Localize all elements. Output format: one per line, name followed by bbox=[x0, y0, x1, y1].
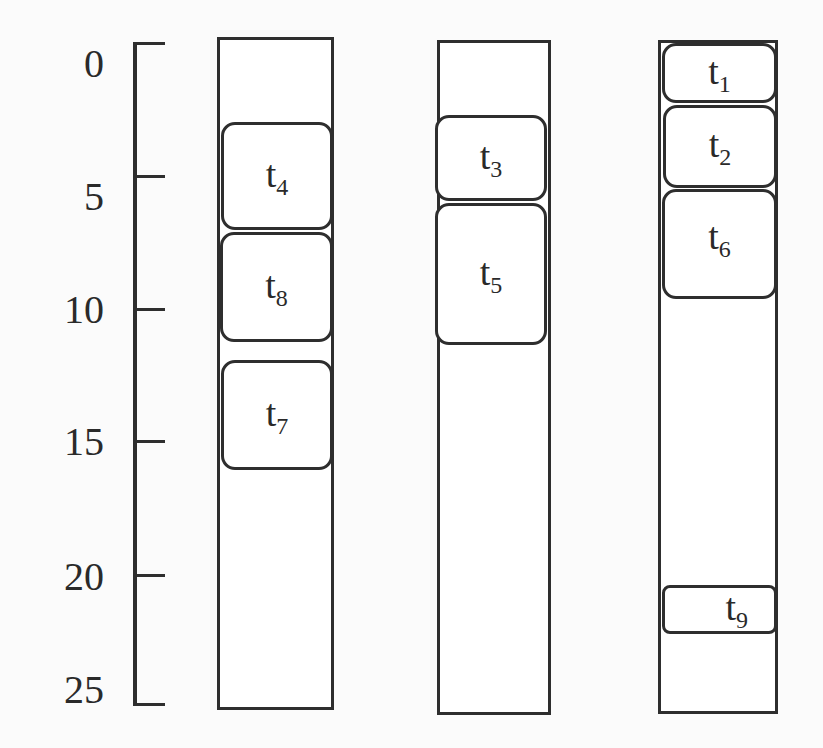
axis-label-25: 25 bbox=[14, 670, 104, 710]
task-t3: t3 bbox=[435, 115, 547, 201]
axis-tick-25 bbox=[133, 703, 165, 706]
task-t7: t7 bbox=[221, 360, 333, 470]
axis-label-20: 20 bbox=[14, 557, 104, 597]
column-1: t4 t8 t7 bbox=[217, 37, 334, 710]
column-2: t3 t5 bbox=[437, 40, 551, 715]
axis-label-5: 5 bbox=[14, 177, 104, 217]
task-t1: t1 bbox=[662, 43, 777, 103]
task-t5: t5 bbox=[435, 203, 547, 345]
axis-tick-15 bbox=[133, 440, 165, 443]
axis-label-15: 15 bbox=[14, 422, 104, 462]
task-t4: t4 bbox=[221, 122, 333, 230]
task-t6: t6 bbox=[662, 189, 777, 299]
axis-tick-0 bbox=[133, 42, 165, 45]
task-t2: t2 bbox=[663, 105, 777, 188]
task-t8: t8 bbox=[220, 232, 333, 342]
time-axis-line bbox=[133, 42, 137, 706]
task-t9: t9 bbox=[662, 585, 777, 634]
axis-tick-5 bbox=[133, 175, 165, 178]
axis-label-0: 0 bbox=[14, 44, 104, 84]
axis-tick-20 bbox=[133, 574, 165, 577]
axis-label-10: 10 bbox=[14, 290, 104, 330]
axis-tick-10 bbox=[133, 308, 165, 311]
column-3: t1 t2 t6 t9 bbox=[658, 40, 778, 714]
